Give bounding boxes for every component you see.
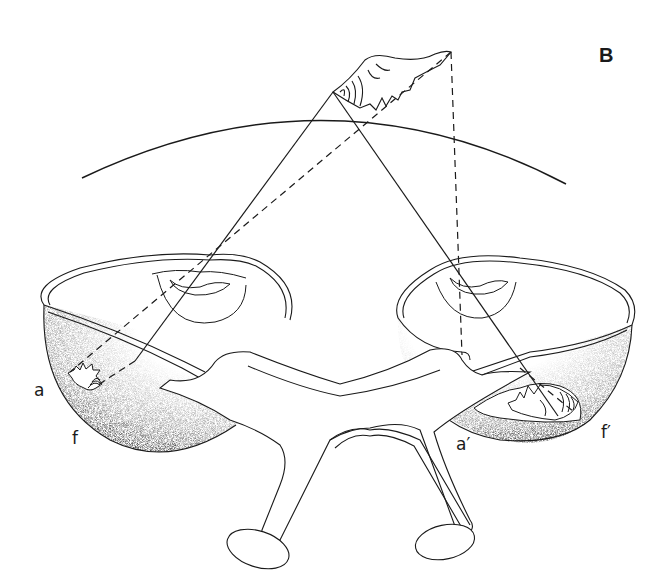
eye-projection-diagram: B a f a′ f′ [0,0,663,584]
label-a-right: a′ [456,436,470,453]
diagram-canvas [0,0,663,584]
optic-stalk-x [160,349,530,576]
label-f-left: f [72,430,78,447]
label-a-left: a [34,382,44,399]
label-f-right: f′ [601,424,611,441]
panel-label: B [599,45,613,65]
visual-field-arc [82,120,566,184]
